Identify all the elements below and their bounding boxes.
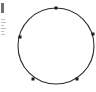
point-marker-layer bbox=[19, 7, 95, 81]
point-marker-p4 bbox=[76, 78, 79, 81]
shape-layer bbox=[18, 8, 94, 84]
point-marker-p3 bbox=[32, 78, 35, 81]
circle-point-diagram bbox=[0, 0, 96, 92]
point-marker-p1 bbox=[55, 7, 58, 10]
point-marker-p5 bbox=[92, 33, 95, 36]
diagram-canvas bbox=[0, 0, 96, 92]
outline-circle bbox=[18, 8, 94, 84]
point-marker-p2 bbox=[19, 36, 22, 39]
